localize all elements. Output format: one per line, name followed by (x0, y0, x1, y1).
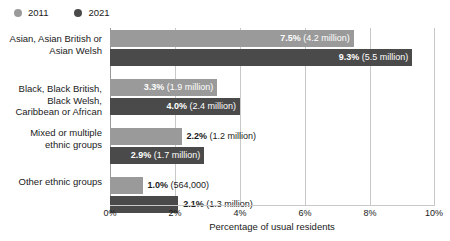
bar-other-2011[interactable] (110, 177, 143, 194)
bar-row-mixed-2021: 2.9% (1.7 million) (110, 147, 204, 164)
category-label-mixed: Mixed or multiple ethnic groups (30, 127, 102, 150)
bar-row-asian-2021: 9.3% (5.5 million) (110, 49, 412, 66)
x-axis-title: Percentage of usual residents (209, 221, 335, 232)
x-axis-line (110, 205, 435, 206)
x-tick-10: 10% (425, 208, 443, 218)
bar-value-other-2011: 1.0% (564,000) (148, 177, 210, 194)
bar-row-mixed-2011: 2.2% (1.2 million) (110, 128, 182, 145)
x-tick-4: 4% (233, 208, 246, 218)
bar-row-other-2011: 1.0% (564,000) (110, 177, 143, 194)
category-label-asian: Asian, Asian British or Asian Welsh (10, 33, 102, 56)
bar-value-black-2011: 3.3% (1.9 million) (144, 79, 214, 96)
bar-value-black-2021: 4.0% (2.4 million) (166, 98, 236, 115)
x-tick-2: 2% (168, 208, 181, 218)
gridline-10 (434, 28, 435, 205)
bar-row-black-2011: 3.3% (1.9 million) (110, 79, 217, 96)
bar-value-mixed-2011: 2.2% (1.2 million) (187, 128, 257, 145)
bar-value-mixed-2021: 2.9% (1.7 million) (131, 147, 201, 164)
x-tick-6: 6% (298, 208, 311, 218)
bar-mixed-2011[interactable] (110, 128, 182, 145)
plot-area: 7.5% (4.2 million) 9.3% (5.5 million) 3.… (110, 28, 435, 205)
category-label-black: Black, Black British, Black Welsh, Carib… (15, 83, 102, 118)
bar-value-asian-2011: 7.5% (4.2 million) (280, 30, 350, 47)
x-tick-8: 8% (363, 208, 376, 218)
x-tick-0: 0% (103, 208, 116, 218)
bar-value-asian-2021: 9.3% (5.5 million) (339, 49, 409, 66)
bar-row-black-2021: 4.0% (2.4 million) (110, 98, 240, 115)
bar-row-asian-2011: 7.5% (4.2 million) (110, 30, 354, 47)
category-label-other: Other ethnic groups (19, 176, 102, 188)
bar-chart: Asian, Asian British or Asian Welsh Blac… (0, 0, 450, 241)
